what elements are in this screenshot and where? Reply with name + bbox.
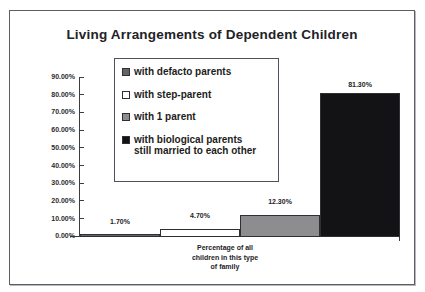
legend-item-step-parent[interactable]: with step-parent [122,89,272,101]
legend-label: with biological parents still married to… [134,134,256,157]
y-axis-tick-label: 90.00% [51,72,75,82]
one-parent-swatch-icon [122,113,130,121]
y-axis-tick-label: 0.00% [55,231,75,241]
y-axis-tick-90: 90.00% [24,72,84,82]
y-axis-tick-60: 60.00% [24,125,84,135]
bar-biological-parents[interactable] [320,93,400,238]
y-axis-tick-label: 70.00% [51,107,75,117]
legend-label: with defacto parents [134,66,231,78]
y-axis-tick-0: 0.00% [24,231,84,241]
bar-defacto-parents[interactable] [80,234,160,237]
legend-label: with step-parent [134,89,211,101]
y-axis-tick-label: 40.00% [51,161,75,171]
chart-title: Living Arrangements of Dependent Childre… [10,27,414,42]
legend-item-defacto-parents[interactable]: with defacto parents [122,66,272,78]
bar-label-step-parent: 4.70% [170,211,230,220]
y-axis-tick-30: 30.00% [24,178,84,188]
x-axis-caption: Percentage of all children in this type … [160,243,290,272]
y-axis-tick-label: 50.00% [51,143,75,153]
y-axis-tick-label: 10.00% [51,214,75,224]
legend-item-biological-parents[interactable]: with biological parents still married to… [122,134,272,157]
chart-frame: Living Arrangements of Dependent Childre… [9,10,415,285]
legend-label: with 1 parent [134,111,196,123]
bar-label-defacto-parents: 1.70% [90,217,150,226]
y-axis-tick-label: 30.00% [51,178,75,188]
bar-one-parent[interactable] [240,215,320,237]
chart-legend: with defacto parents with step-parent wi… [114,58,279,182]
bar-label-biological-parents: 81.30% [330,80,390,89]
y-axis-tick-10: 10.00% [24,214,84,224]
bar-label-one-parent: 12.30% [250,197,310,206]
legend-item-one-parent[interactable]: with 1 parent [122,111,272,123]
y-axis-tick-label: 80.00% [51,90,75,100]
defacto-swatch-icon [122,68,130,76]
y-axis-tick-80: 80.00% [24,90,84,100]
step-parent-swatch-icon [122,91,130,99]
y-axis-tick-20: 20.00% [24,196,84,206]
y-axis-tick-label: 60.00% [51,125,75,135]
biological-swatch-icon [122,136,130,144]
y-axis-tick-40: 40.00% [24,161,84,171]
y-axis-tick-70: 70.00% [24,107,84,117]
y-axis-tick-label: 20.00% [51,196,75,206]
y-axis-tick-50: 50.00% [24,143,84,153]
bar-step-parent[interactable] [160,229,240,237]
